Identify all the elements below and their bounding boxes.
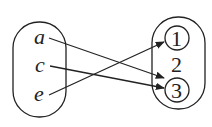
codomain-element-1: 1 <box>171 26 182 51</box>
domain-element-e: e <box>34 81 44 106</box>
codomain-element-2: 2 <box>171 52 182 77</box>
domain-element-c: c <box>35 52 45 77</box>
codomain-element-3: 3 <box>171 78 182 103</box>
mapping-diagram: a c e 1 2 3 <box>0 0 212 127</box>
domain-element-a: a <box>34 24 45 49</box>
arrow-c-to-3 <box>50 66 164 88</box>
